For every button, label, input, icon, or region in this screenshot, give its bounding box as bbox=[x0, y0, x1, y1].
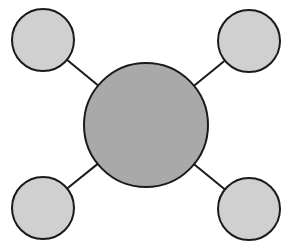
spoke-circle-bottom-left bbox=[12, 177, 74, 239]
hub-spoke-diagram bbox=[0, 0, 289, 251]
connector-top-right bbox=[194, 61, 225, 86]
spoke-circle-top-left bbox=[12, 9, 74, 71]
connector-top-left bbox=[67, 60, 98, 86]
spoke-circle-top-right bbox=[218, 10, 280, 72]
nodes bbox=[12, 9, 280, 240]
hub-circle bbox=[84, 63, 208, 187]
connector-bottom-left bbox=[67, 164, 98, 189]
connector-bottom-right bbox=[194, 164, 225, 189]
spoke-circle-bottom-right bbox=[218, 178, 280, 240]
